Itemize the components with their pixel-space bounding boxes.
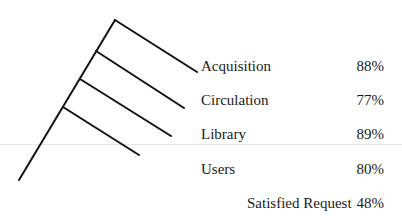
branch-users	[63, 107, 139, 155]
label-library: Library	[201, 126, 246, 143]
label-acquisition: Acquisition	[201, 58, 271, 75]
main-spine	[19, 20, 115, 180]
tree-diagram: Acquisition 88% Circulation 77% Library …	[0, 0, 402, 224]
branch-circulation	[96, 51, 184, 108]
value-satisfied-request: 48%	[334, 195, 384, 212]
label-circulation: Circulation	[201, 92, 269, 109]
branch-acquisition	[115, 20, 197, 72]
value-users: 80%	[334, 161, 384, 178]
value-library: 89%	[334, 126, 384, 143]
value-acquisition: 88%	[334, 58, 384, 75]
value-circulation: 77%	[334, 92, 384, 109]
tree-lines	[0, 0, 402, 224]
label-users: Users	[201, 161, 235, 178]
